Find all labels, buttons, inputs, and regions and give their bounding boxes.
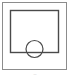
caption-mark: — — [33, 72, 36, 76]
outer-frame — [3, 3, 67, 70]
figure-drawing: — — [0, 0, 70, 77]
figure-container: — — [0, 0, 70, 77]
